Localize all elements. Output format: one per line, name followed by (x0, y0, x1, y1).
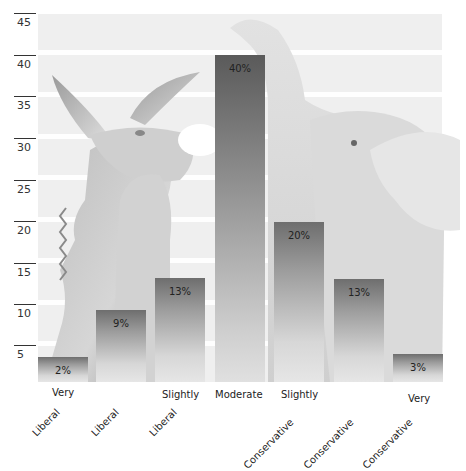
bar-value-label: 13% (155, 286, 205, 297)
bar-slightly-liberal: 13% (155, 278, 205, 382)
y-tick (14, 180, 36, 181)
y-tick-label: 15 (17, 267, 31, 279)
category-label-top: Moderate (215, 389, 263, 400)
bar-conservative: 13% (334, 279, 384, 382)
y-tick-label: 25 (17, 184, 31, 196)
bar-value-label: 2% (38, 365, 88, 376)
y-tick-label: 10 (17, 308, 31, 320)
category-label-top: Slightly (281, 389, 318, 400)
category-label-rotated: Liberal (30, 407, 62, 439)
y-tick-label: 40 (17, 59, 31, 71)
bar-liberal: 9% (96, 310, 146, 382)
category-label-rotated: Conservative (242, 417, 296, 471)
bar-value-label: 20% (274, 230, 324, 241)
category-label-top: Slightly (162, 389, 199, 400)
bar-moderate: 40% (215, 55, 265, 382)
category-label-rotated: Conservative (302, 417, 356, 471)
bar-very-liberal: 2% (38, 357, 88, 382)
bar-very-conservative: 3% (393, 354, 443, 382)
category-label-rotated: Liberal (89, 407, 121, 439)
y-tick (14, 96, 36, 97)
y-tick-label: 35 (17, 100, 31, 112)
y-tick-label: 45 (17, 17, 31, 29)
y-tick-label: 5 (17, 349, 24, 361)
y-tick-label: 20 (17, 225, 31, 237)
bar-value-label: 3% (393, 362, 443, 373)
bar-value-label: 40% (215, 63, 265, 74)
category-label-top: Very (408, 393, 430, 404)
y-tick-label: 30 (17, 142, 31, 154)
y-tick (14, 55, 36, 56)
y-tick (14, 263, 36, 264)
y-tick (14, 13, 36, 14)
y-tick (14, 304, 36, 305)
bar-value-label: 13% (334, 287, 384, 298)
y-tick (14, 345, 36, 346)
category-label-rotated: Conservative (361, 417, 415, 471)
category-label-rotated: Liberal (147, 407, 179, 439)
y-tick (14, 138, 36, 139)
y-tick (14, 221, 36, 222)
bar-value-label: 9% (96, 318, 146, 329)
bar-slightly-conservative: 20% (274, 222, 324, 382)
category-label-top: Very (52, 387, 74, 398)
